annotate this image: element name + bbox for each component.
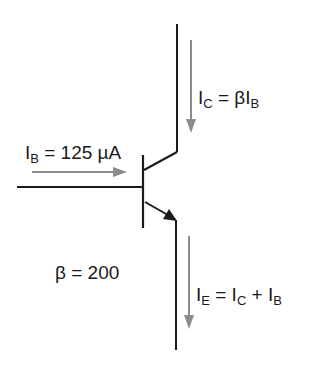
emitter-arrow-icon <box>163 209 177 221</box>
ib-sub: B <box>30 151 39 166</box>
ib-value: = 125 µA <box>39 142 121 163</box>
ic-current-arrow-icon <box>186 40 196 133</box>
ie-sub2: C <box>237 293 246 308</box>
ib-label: IB = 125 µA <box>25 143 121 165</box>
ib-current-arrow-icon <box>32 167 127 177</box>
transistor-diagram <box>0 0 326 367</box>
ic-sub: C <box>203 96 212 111</box>
ic-sub2: B <box>251 96 260 111</box>
ie-sub: E <box>201 293 210 308</box>
ic-formula: = βI <box>213 87 251 108</box>
ie-sub3: B <box>273 293 282 308</box>
beta-label: β = 200 <box>55 263 119 282</box>
ic-label: IC = βIB <box>198 88 259 110</box>
ie-formula-b: + I <box>246 284 273 305</box>
ie-current-arrow-icon <box>184 236 194 329</box>
collector-diagonal <box>144 152 177 170</box>
ie-label: IE = IC + IB <box>196 285 282 307</box>
ie-formula-a: = I <box>210 284 237 305</box>
